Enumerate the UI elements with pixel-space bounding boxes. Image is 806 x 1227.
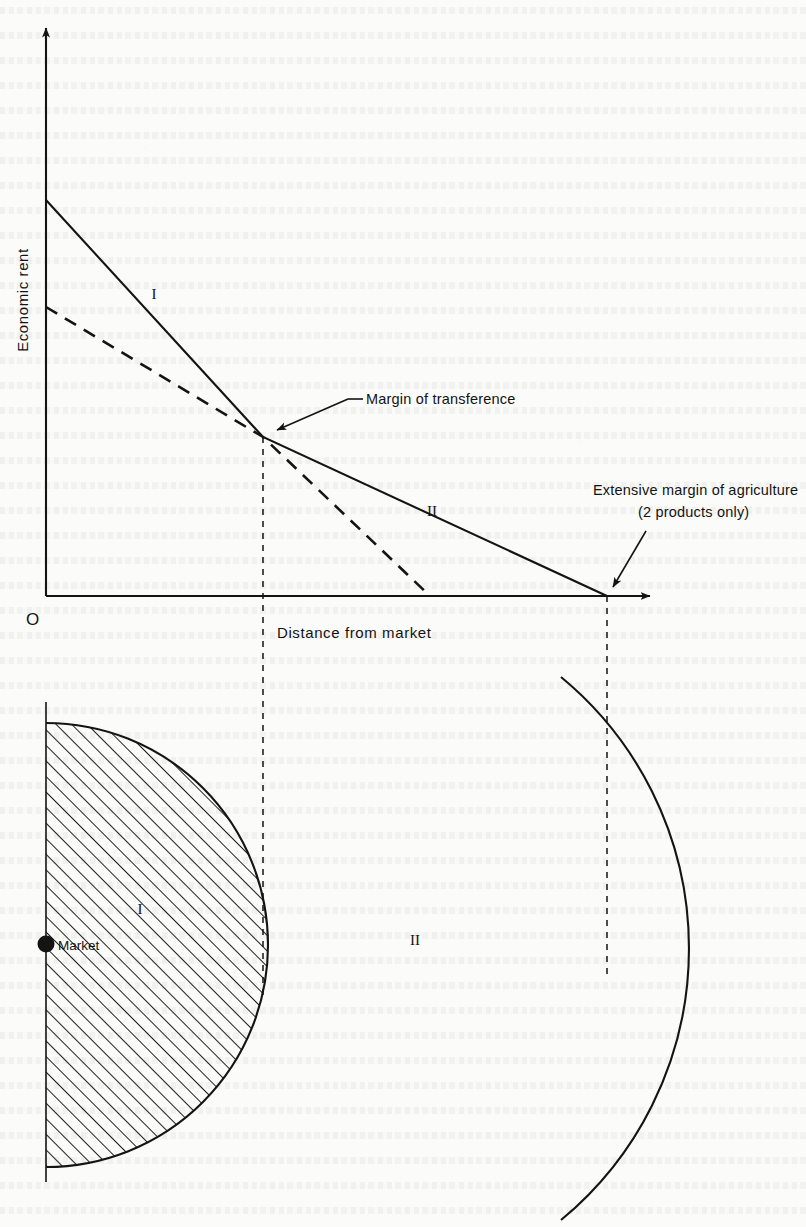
market-label: Market <box>58 938 100 953</box>
bid-rent-curve-solid <box>46 200 607 596</box>
market-point-marker <box>38 936 55 953</box>
origin-label: O <box>26 610 39 629</box>
upper-zone-label-2: II <box>427 503 437 519</box>
annotation-margin-of-transference-label: Margin of transference <box>366 391 515 407</box>
zone-2-boundary-arc <box>561 677 689 1220</box>
bid-rent-curve-dashed <box>46 307 430 596</box>
lower-zone-label-1: I <box>138 901 143 917</box>
lower-panel-plan-view: Market I II <box>38 677 689 1220</box>
annotation-extensive-margin: Extensive margin of agriculture (2 produ… <box>593 482 798 587</box>
x-axis-title: Distance from market <box>277 624 432 641</box>
scanned-page: Margin of transference Extensive margin … <box>0 0 806 1227</box>
y-axis-title: Economic rent <box>14 248 31 352</box>
annotation-extensive-margin-line2: (2 products only) <box>638 504 749 520</box>
annotation-extensive-margin-line1: Extensive margin of agriculture <box>593 482 798 498</box>
upper-zone-label-1: I <box>152 286 157 302</box>
land-use-figure: Margin of transference Extensive margin … <box>0 0 806 1227</box>
lower-zone-label-2: II <box>410 932 420 948</box>
annotation-margin-of-transference: Margin of transference <box>277 391 515 430</box>
